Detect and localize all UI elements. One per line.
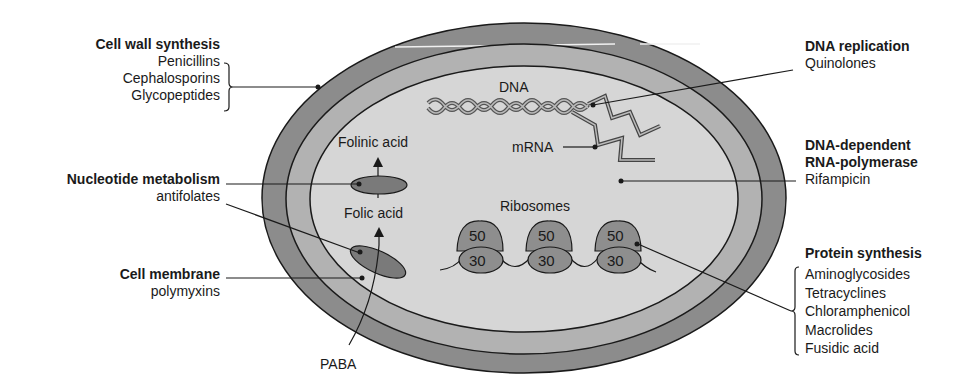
dna-replication-label-group: DNA replication Quinolones: [805, 38, 910, 72]
mrna-label: mRNA: [512, 139, 553, 155]
ribosome-2-large: 50: [538, 227, 555, 244]
ribosome-3-large: 50: [607, 227, 624, 244]
drug-glycopeptides: Glycopeptides: [96, 87, 221, 104]
nucleotide-title: Nucleotide metabolism: [67, 171, 220, 188]
ribosome-1-large: 50: [469, 227, 486, 244]
paba-label: PABA: [320, 356, 356, 372]
drug-cephalosporins: Cephalosporins: [96, 70, 221, 87]
nucleotide-label-group: Nucleotide metabolism antifolates: [67, 171, 220, 205]
dna-replication-title: DNA replication: [805, 38, 910, 55]
bracket-protein: [791, 267, 799, 355]
ribosomes-label: Ribosomes: [500, 198, 570, 214]
rna-polymerase-label-group: DNA-dependent RNA-polymerase Rifampicin: [805, 137, 918, 188]
membrane-label-group: Cell membrane polymyxins: [120, 266, 220, 300]
folinic-acid-label: Folinic acid: [338, 134, 408, 150]
ribosome-2-small: 30: [538, 252, 555, 269]
ribosome-1-small: 30: [469, 252, 486, 269]
protein-title: Protein synthesis: [805, 245, 922, 262]
cell-wall-label-group: Cell wall synthesis Penicillins Cephalos…: [96, 36, 221, 104]
drug-polymyxins: polymyxins: [120, 283, 220, 300]
ribosome-3-small: 30: [607, 252, 624, 269]
drug-tetracyclines: Tetracyclines: [805, 284, 922, 303]
drug-fusidic-acid: Fusidic acid: [805, 339, 922, 358]
drug-macrolides: Macrolides: [805, 321, 922, 340]
protein-label-group: Protein synthesis Aminoglycosides Tetrac…: [805, 245, 922, 358]
drug-chloramphenicol: Chloramphenicol: [805, 302, 922, 321]
folic-acid-label: Folic acid: [344, 205, 403, 221]
membrane-title: Cell membrane: [120, 266, 220, 283]
bracket-cell-wall: [224, 63, 233, 111]
cell-wall-title: Cell wall synthesis: [96, 36, 221, 53]
drug-aminoglycosides: Aminoglycosides: [805, 265, 922, 284]
rna-polymerase-title-2: RNA-polymerase: [805, 154, 918, 171]
rna-polymerase-title-1: DNA-dependent: [805, 137, 918, 154]
drug-rifampicin: Rifampicin: [805, 171, 918, 188]
drug-antifolates: antifolates: [67, 188, 220, 205]
drug-penicillins: Penicillins: [96, 53, 221, 70]
drug-quinolones: Quinolones: [805, 55, 910, 72]
dna-label: DNA: [499, 79, 529, 95]
